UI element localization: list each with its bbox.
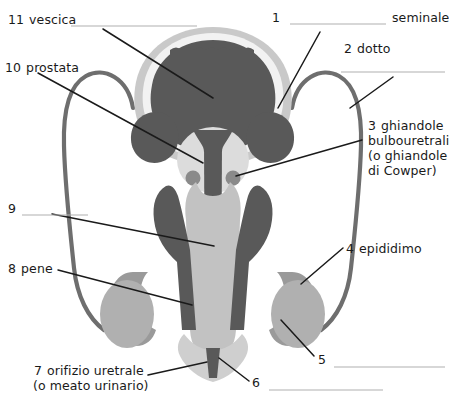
label-11[interactable]: 11vescica	[8, 12, 76, 27]
label-9-number: 9	[8, 201, 16, 216]
label-7-text: orifizio uretrale	[47, 363, 144, 378]
label-5[interactable]: 5	[318, 352, 331, 367]
label-2-number: 2	[344, 41, 352, 56]
label-8-number: 8	[8, 261, 16, 276]
label-1-suffix[interactable]: seminale	[392, 10, 449, 25]
bulbourethral-gland-right-icon	[226, 171, 241, 186]
label-4[interactable]: 4epididimo	[346, 241, 422, 256]
label-8-text: pene	[21, 261, 53, 276]
label-7-number: 7	[34, 363, 42, 378]
bulbourethral-gland-left-icon	[186, 171, 201, 186]
label-6-number: 6	[252, 375, 260, 390]
label-11-number: 11	[8, 12, 24, 27]
leader-line-4	[301, 248, 343, 284]
label-6[interactable]: 6	[252, 375, 265, 390]
label-1-text: seminale	[392, 10, 449, 25]
label-10-text: prostata	[26, 60, 79, 75]
label-3[interactable]: 3ghiandole bulbouretrali (o ghiandole di…	[368, 118, 449, 178]
label-1-number: 1	[272, 10, 280, 25]
label-2-text: dotto	[357, 41, 391, 56]
label-10[interactable]: 10prostata	[5, 60, 79, 75]
corpus-spongiosum-icon	[185, 182, 240, 360]
label-2[interactable]: 2dotto	[344, 41, 391, 56]
label-3-text-line3: (o ghiandole	[368, 148, 449, 163]
label-8[interactable]: 8pene	[8, 261, 53, 276]
label-3-text: ghiandole	[381, 118, 444, 133]
leader-line-2	[350, 77, 393, 108]
label-11-text: vescica	[29, 12, 76, 27]
label-7[interactable]: 7orifizio uretrale (o meato urinario)	[34, 363, 149, 393]
seminal-vesicle-right-icon	[247, 112, 294, 163]
label-5-number: 5	[318, 352, 326, 367]
label-3-number: 3	[368, 118, 376, 133]
label-7-text-alt: (o meato urinario)	[33, 378, 149, 393]
label-4-text: epididimo	[359, 241, 422, 256]
label-3-text-line4: di Cowper)	[368, 163, 449, 178]
label-1[interactable]: 1	[272, 10, 285, 25]
label-4-number: 4	[346, 241, 354, 256]
label-3-text-line2: bulbouretrali	[368, 133, 449, 148]
label-10-number: 10	[5, 60, 21, 75]
testicle-left-icon	[100, 280, 154, 348]
label-9[interactable]: 9	[8, 201, 21, 216]
